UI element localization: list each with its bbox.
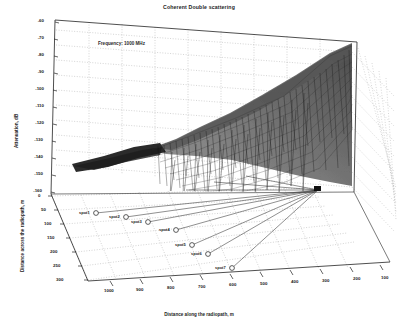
x-tick-8: 200 <box>353 276 360 281</box>
transmitter-node <box>314 186 321 191</box>
y-tick-2: 100 <box>44 221 51 226</box>
z-tick-5: -110 <box>20 103 44 108</box>
x-tick-7: 300 <box>322 278 329 283</box>
z-axis-ticks <box>51 22 59 193</box>
z-axis-label: Attenuation, dB <box>14 114 19 148</box>
spot-label-3: spot3 <box>131 219 142 224</box>
spot-label-1: spot1 <box>79 210 90 215</box>
z-tick-7: -130 <box>19 137 43 142</box>
x-tick-0: 1000 <box>104 288 114 293</box>
spot-marker <box>190 243 195 248</box>
spot-marker <box>146 220 151 225</box>
z-tick-2: -80 <box>22 52 44 57</box>
x-tick-3: 700 <box>198 284 205 289</box>
figure-canvas: Coherent Double scattering Frequency: 10… <box>0 0 398 329</box>
x-tick-4: 600 <box>229 282 236 287</box>
y-tick-4: 200 <box>50 249 57 254</box>
spot-label-4: spot4 <box>159 227 170 232</box>
spot-marker <box>94 211 99 216</box>
frequency-annotation: Frequency: 1000 MHz <box>98 41 145 46</box>
spot-marker <box>174 228 179 233</box>
x-tick-9: 100 <box>381 275 388 280</box>
x-tick-1: 900 <box>136 287 143 292</box>
y-tick-0: 0 <box>38 193 40 198</box>
right-wall-grid <box>352 48 396 231</box>
x-tick-5: 500 <box>260 281 267 286</box>
z-tick-3: -90 <box>22 69 44 74</box>
spot-marker <box>230 266 235 271</box>
z-tick-1: -70 <box>22 35 44 40</box>
y-axis-label: Distance across the radiopath, m <box>20 200 25 272</box>
z-tick-8: -140 <box>19 154 43 159</box>
spot-label-5: spot5 <box>175 242 186 247</box>
chart-title: Coherent Double scattering <box>0 4 398 10</box>
y-tick-6: 300 <box>56 277 63 282</box>
spot-marker <box>206 252 211 257</box>
y-tick-3: 150 <box>47 235 54 240</box>
x-axis-ticks <box>110 265 383 286</box>
spot-label-2: spot2 <box>109 214 120 219</box>
x-tick-6: 400 <box>291 279 298 284</box>
z-tick-6: -120 <box>20 120 44 125</box>
spot-label-7: spot7 <box>215 265 226 270</box>
y-tick-1: 50 <box>41 207 46 212</box>
spot-label-6: spot6 <box>191 251 202 256</box>
x-axis-label: Distance along the radiopath, m <box>164 312 234 317</box>
z-tick-9: -150 <box>19 171 43 176</box>
spot-marker <box>124 215 129 220</box>
z-tick-4: -100 <box>20 86 44 91</box>
y-tick-5: 250 <box>53 263 60 268</box>
z-tick-0: -60 <box>22 18 44 23</box>
x-tick-2: 800 <box>167 285 174 290</box>
